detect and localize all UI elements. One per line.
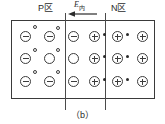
depletion-boundary-left: [65, 13, 66, 110]
acceptor-ion: [20, 31, 31, 42]
acceptor-ion: [68, 53, 79, 64]
donor-ion: [89, 76, 100, 87]
electron-carrier: [103, 78, 106, 81]
pn-junction-figure: P区 N区 E内 （b）: [0, 0, 165, 124]
electron-carrier: [126, 33, 129, 36]
donor-ion: [137, 31, 148, 42]
field-subscript: 内: [79, 5, 85, 11]
internal-field-annotation: E内: [67, 0, 99, 18]
junction-outline: [11, 20, 155, 99]
acceptor-ion: [68, 31, 79, 42]
acceptor-ion: [20, 53, 31, 64]
electron-carrier: [126, 55, 129, 58]
hole-carrier: [56, 26, 60, 30]
hole-carrier: [33, 70, 37, 74]
acceptor-ion: [44, 31, 55, 42]
acceptor-ion: [68, 76, 79, 87]
hole-carrier: [56, 70, 60, 74]
acceptor-ion: [44, 76, 55, 87]
n-region-label: N区: [111, 3, 127, 13]
donor-ion: [112, 53, 123, 64]
acceptor-ion: [44, 53, 55, 64]
donor-ion: [89, 31, 100, 42]
electron-carrier: [126, 78, 129, 81]
figure-caption: （b）: [0, 108, 165, 121]
donor-ion: [137, 76, 148, 87]
depletion-boundary-right: [105, 13, 106, 110]
hole-carrier: [33, 25, 37, 29]
electron-carrier: [103, 55, 106, 58]
field-direction-arrow-icon: [68, 11, 98, 17]
electron-carrier: [103, 33, 106, 36]
donor-ion: [112, 76, 123, 87]
acceptor-ion: [20, 76, 31, 87]
hole-carrier: [33, 48, 37, 52]
donor-ion: [89, 53, 100, 64]
donor-ion: [137, 53, 148, 64]
donor-ion: [112, 31, 123, 42]
hole-carrier: [56, 48, 60, 52]
p-region-label: P区: [38, 3, 53, 13]
